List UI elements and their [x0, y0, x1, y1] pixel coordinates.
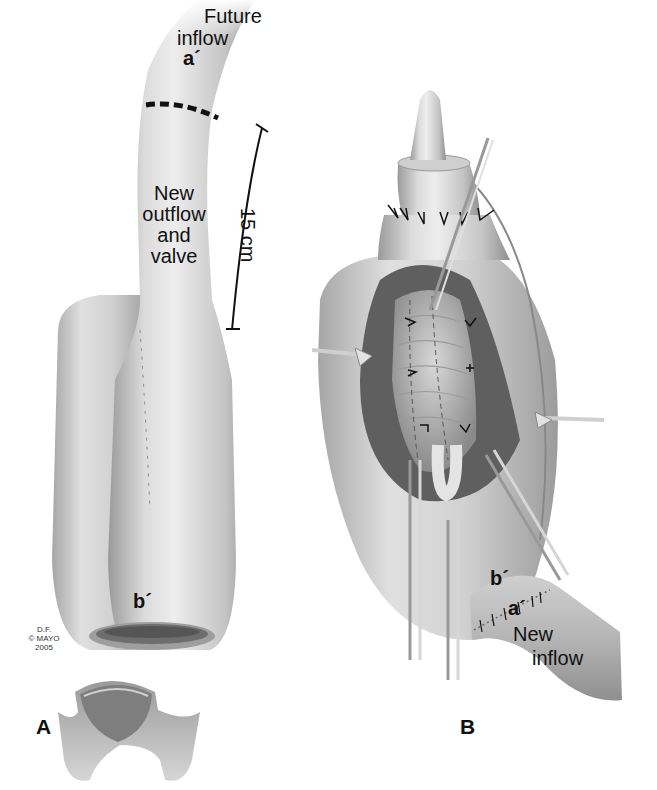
label-marker-b-prime-b: b´: [490, 568, 509, 589]
label-marker-b-prime: b´: [133, 591, 152, 612]
label-new-outflow-line3: and: [142, 225, 206, 246]
panel-label-a: A: [36, 716, 51, 738]
credit-block: D.F. © MAYO 2005: [24, 626, 64, 652]
label-new-outflow-line2: outflow: [130, 204, 218, 225]
credit-year: 2005: [24, 644, 64, 653]
label-new-outflow-line1: New: [142, 183, 206, 204]
label-marker-a-prime-b: a´: [508, 598, 526, 619]
label-future-inflow-line1: Future: [204, 6, 262, 27]
panel-label-b: B: [460, 716, 475, 738]
label-new-inflow-line1: New: [513, 624, 553, 645]
panel-b-surgical-view: [312, 90, 622, 701]
label-new-inflow-line2: inflow: [532, 648, 583, 669]
label-future-inflow-line2: inflow: [177, 28, 228, 49]
medical-illustration: Future inflow a´ New outflow and valve 1…: [0, 0, 657, 790]
label-marker-a-prime-top: a´: [183, 48, 201, 69]
label-measurement-15cm: 15 cm: [237, 208, 258, 262]
illustration-artwork: [0, 0, 657, 790]
panel-a-pouch: [52, 0, 268, 650]
label-new-outflow-line4: valve: [136, 246, 212, 267]
rectum-cross-section: [58, 681, 200, 781]
